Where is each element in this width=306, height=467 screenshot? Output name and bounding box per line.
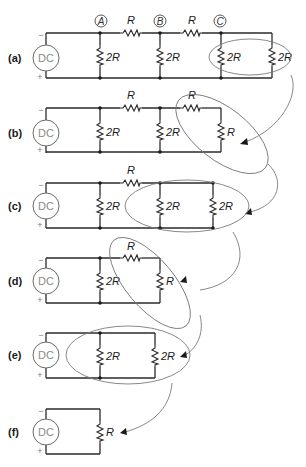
step-label: (d) [8,275,22,287]
plus-sign: + [37,446,42,456]
resistor-label: R [127,164,135,176]
resistor-label: 2R [105,275,120,287]
minus-sign: − [38,30,43,40]
step-b: (b) DC − + R R 2R 2R R [8,80,281,189]
resistor-label: R [106,426,114,438]
step-c: (c) DC − + R 2R 2R 2R [8,164,249,232]
arrowhead-icon [240,138,248,145]
arrowhead-icon [180,351,187,358]
plus-sign: + [37,370,42,380]
resistor-label: 2R [105,51,120,63]
resistor-label: 2R [165,51,180,63]
step-label: (b) [8,127,22,139]
resistor-icon [120,30,142,36]
step-label: (f) [8,426,19,438]
resistor-label: 2R [160,350,175,362]
resistor-label: R [127,240,135,252]
minus-sign: − [38,255,43,265]
resistor-label: R [227,126,235,138]
step-label: (e) [8,349,22,361]
source-label: DC [38,200,54,212]
reduction-arrow [250,164,278,212]
step-d: (d) DC − + R 2R R [8,225,204,342]
node-a-label: A [97,16,105,27]
highlight-ellipse [163,80,282,189]
source-label: DC [38,349,54,361]
resistor-label: 2R [105,350,120,362]
resistor-label: 2R [165,200,180,212]
plus-sign: + [37,72,42,82]
step-e: (e) DC − + 2R 2R [8,326,190,384]
minus-sign: − [38,330,43,340]
node-b-label: B [157,16,164,27]
minus-sign: − [38,406,43,416]
step-label: (a) [8,52,22,64]
resistor-label: 2R [218,200,233,212]
resistor-label: R [127,14,135,26]
node-c-label: C [216,16,224,27]
arrowhead-icon [120,428,127,435]
step-a: (a) DC − + A B C R R 2R 2R 2R 2R [8,14,292,82]
resistor-label: R [188,14,196,26]
resistor-label: 2R [105,126,120,138]
source-label: DC [38,426,54,438]
source-label: DC [38,52,54,64]
step-f: (f) DC − + R [8,406,114,456]
minus-sign: − [38,105,43,115]
step-label: (c) [8,200,22,212]
resistor-label: 2R [165,126,180,138]
resistor-label: R [166,275,174,287]
circuit-reduction-diagram: (a) DC − + A B C R R 2R 2R 2R 2R [0,0,306,467]
resistor-label: R [127,89,135,101]
reduction-arrow [245,75,293,142]
plus-sign: + [37,220,42,230]
source-label: DC [38,275,54,287]
source-label: DC [38,127,54,139]
reduction-arrow [185,315,201,355]
plus-sign: + [37,145,42,155]
arrowhead-icon [180,276,187,283]
plus-sign: + [37,295,42,305]
resistor-label: 2R [226,51,241,63]
reduction-arrow [200,232,240,290]
reduction-arrow [125,383,172,432]
minus-sign: − [38,180,43,190]
resistor-icon [180,30,202,36]
resistor-label: 2R [105,200,120,212]
